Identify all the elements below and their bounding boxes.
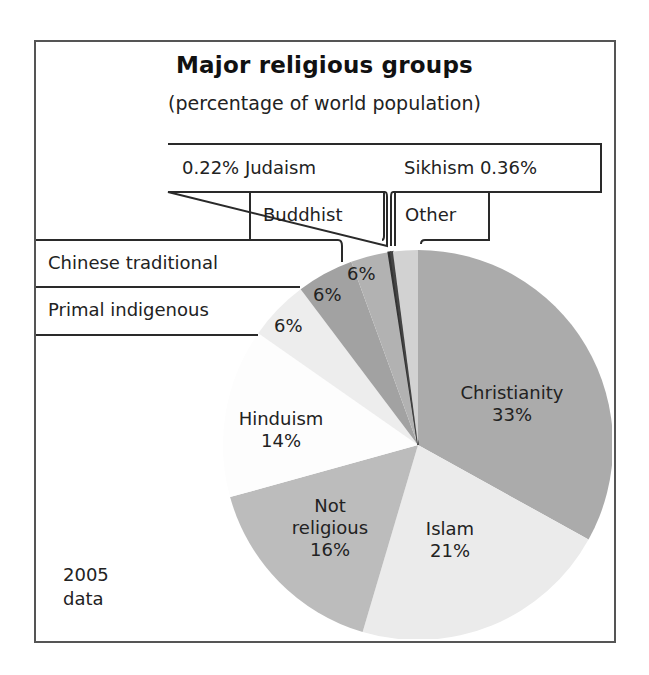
label-hinduism: Hinduism 14% — [226, 408, 336, 452]
pct-chinese-traditional: 6% — [313, 284, 342, 306]
chart-subtitle: (percentage of world population) — [0, 92, 649, 114]
note-2005-data: 2005 data — [63, 563, 109, 611]
label-judaism: 0.22% Judaism — [182, 157, 316, 179]
label-other: Other — [405, 204, 456, 226]
label-not-religious: Not religious 16% — [275, 495, 385, 561]
label-islam: Islam 21% — [400, 518, 500, 562]
chart-title: Major religious groups — [0, 52, 649, 78]
label-chinese-traditional: Chinese traditional — [48, 252, 218, 274]
label-primal-indigenous: Primal indigenous — [48, 299, 209, 321]
label-christianity: Christianity 33% — [432, 382, 592, 426]
pct-buddhist: 6% — [347, 263, 376, 285]
label-sikhism: Sikhism 0.36% — [404, 157, 537, 179]
label-buddhist: Buddhist — [263, 204, 342, 226]
pct-primal-indigenous: 6% — [274, 315, 303, 337]
